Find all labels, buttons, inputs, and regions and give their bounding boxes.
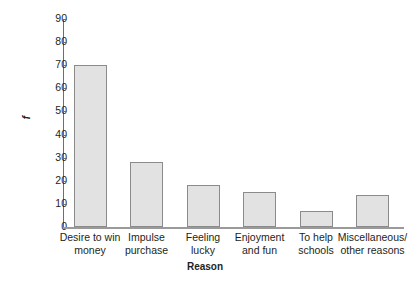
bar xyxy=(74,65,107,227)
bar-chart: f 9080706050403020100 Desire to winmoney… xyxy=(0,0,420,283)
bar xyxy=(300,211,333,227)
y-axis-tick: 50 xyxy=(30,111,67,112)
bars-layer xyxy=(63,19,404,227)
x-axis-tick-labels: Desire to winmoneyImpulsepurchaseFeeling… xyxy=(63,231,420,261)
x-axis-tick-label-line: other reasons xyxy=(336,244,410,257)
y-axis-tick: 70 xyxy=(30,65,67,66)
y-axis-tick: 80 xyxy=(30,42,67,43)
y-axis-tick: 20 xyxy=(30,181,67,182)
y-axis-tick: 0 xyxy=(30,227,67,228)
y-axis-tick: 10 xyxy=(30,204,67,205)
x-axis-tick-label: Miscellaneous/other reasons xyxy=(336,231,410,256)
x-axis-line xyxy=(63,227,404,229)
bar xyxy=(187,185,220,227)
y-axis-tick: 60 xyxy=(30,88,67,89)
x-axis-tick-label-line: Miscellaneous/ xyxy=(336,231,410,244)
y-axis-tick: 90 xyxy=(30,19,67,20)
y-axis-title: f xyxy=(21,106,32,130)
x-axis-title: Reason xyxy=(63,261,347,272)
bar xyxy=(130,162,163,227)
y-axis-tick: 40 xyxy=(30,135,67,136)
y-axis-tick: 30 xyxy=(30,158,67,159)
bar xyxy=(356,195,389,227)
bar xyxy=(243,192,276,227)
